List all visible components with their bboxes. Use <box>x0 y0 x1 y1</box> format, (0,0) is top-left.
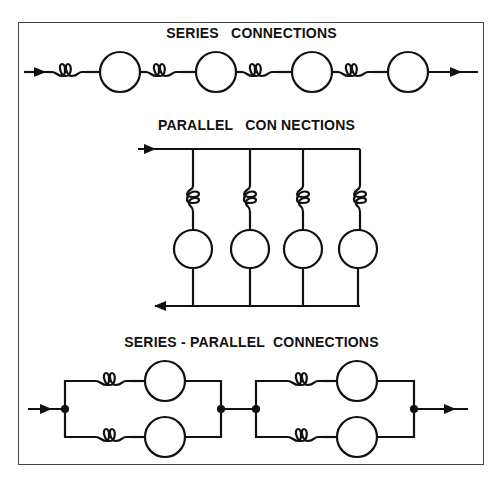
series-parallel-circuit <box>28 361 468 457</box>
series-circuit <box>24 52 478 92</box>
parallel-circuit <box>138 144 377 311</box>
circuit-diagram <box>0 0 503 483</box>
